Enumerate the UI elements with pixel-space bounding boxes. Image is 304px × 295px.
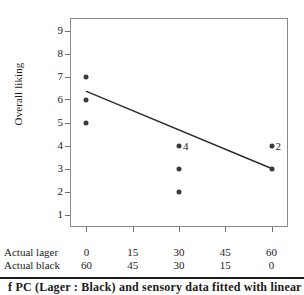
- axis-value-lager-0: 0: [74, 246, 98, 258]
- figure-scatter-overall-liking: Overall liking 123456789 42 Actual lager…: [0, 0, 304, 295]
- axis-value-lager-60: 60: [260, 246, 284, 258]
- x-tick-mark-30: [179, 227, 180, 232]
- y-tick-label-5: 5: [47, 117, 63, 128]
- data-point: [269, 166, 274, 171]
- y-tick-label-4: 4: [47, 140, 63, 151]
- plot-area: 42: [70, 18, 288, 227]
- footer-caption-text: f PC (Lager : Black) and sensory data fi…: [8, 281, 302, 295]
- y-tick-label-9: 9: [47, 25, 63, 36]
- data-point-count-label: 4: [183, 140, 189, 151]
- data-point: [84, 120, 89, 125]
- data-point: [177, 143, 182, 148]
- axis-value-black-30: 30: [167, 259, 191, 271]
- x-tick-mark-45: [225, 227, 226, 232]
- y-tick-label-2: 2: [47, 186, 63, 197]
- axis-row-actual-black: Actual black 604530150: [0, 259, 304, 272]
- axis-value-lager-30: 30: [167, 246, 191, 258]
- y-tick-label-8: 8: [47, 48, 63, 59]
- axis-value-black-45: 45: [121, 259, 145, 271]
- axis-value-black-60: 60: [74, 259, 98, 271]
- y-tick-label-1: 1: [47, 209, 63, 220]
- y-tick-label-3: 3: [47, 163, 63, 174]
- axis-row-label-lager: Actual lager: [4, 246, 58, 258]
- y-tick-label-7: 7: [47, 71, 63, 82]
- axis-value-black-0: 0: [260, 259, 284, 271]
- axis-row-label-black: Actual black: [4, 259, 60, 271]
- x-axis-dual-rows: Actual lager 015304560 Actual black 6045…: [0, 246, 304, 272]
- axis-row-actual-lager: Actual lager 015304560: [0, 246, 304, 259]
- axis-value-lager-15: 15: [121, 246, 145, 258]
- footer-rule: [0, 277, 304, 279]
- x-tick-mark-15: [133, 227, 134, 232]
- footer-caption-clipped: f PC (Lager : Black) and sensory data fi…: [0, 281, 304, 295]
- y-tick-label-6: 6: [47, 94, 63, 105]
- data-point-count-label: 2: [276, 140, 282, 151]
- axis-value-lager-45: 45: [213, 246, 237, 258]
- regression-line: [71, 19, 287, 226]
- y-axis-title: Overall liking: [12, 49, 24, 139]
- axis-value-black-15: 15: [213, 259, 237, 271]
- data-point: [177, 189, 182, 194]
- data-point: [269, 143, 274, 148]
- x-tick-mark-0: [86, 227, 87, 232]
- data-point: [177, 166, 182, 171]
- data-point: [84, 74, 89, 79]
- plot-inner: 42: [71, 19, 287, 226]
- data-point: [84, 97, 89, 102]
- x-tick-mark-60: [272, 227, 273, 232]
